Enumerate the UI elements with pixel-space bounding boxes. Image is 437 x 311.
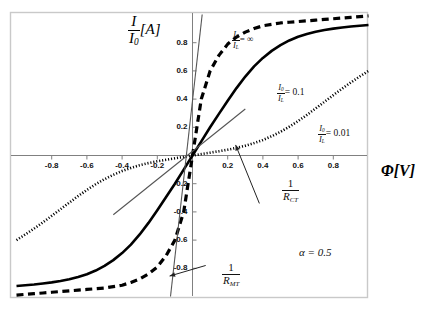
r-ct-annotation: 1 RCT (282, 178, 299, 202)
y-axis-title-numerator: I (128, 14, 140, 31)
x-tick-label: -0.6 (77, 162, 97, 170)
y-axis-title: I I0 [A] (128, 14, 161, 48)
x-tick-label: 0.2 (218, 162, 238, 170)
x-tick-label: -0.8 (42, 162, 62, 170)
legend-label-infinity: I0 IL = ∞ (232, 30, 254, 50)
y-tick-label: -0.2 (166, 180, 188, 188)
y-tick-label: 0.6 (166, 67, 188, 75)
legend-1-den: IL (277, 94, 285, 104)
y-tick-label: -0.8 (166, 264, 188, 272)
alpha-annotation: α = 0.5 (299, 247, 331, 258)
r-mt-annotation: 1 RMT (222, 262, 240, 286)
x-tick-label: 0.4 (253, 162, 273, 170)
x-tick-label: -0.2 (147, 162, 167, 170)
r-ct-denominator: RCT (282, 191, 299, 203)
y-axis-title-unit: [A] (140, 21, 161, 37)
x-axis-title: Φ[V] (381, 163, 415, 179)
legend-label-0p1: I0 IL = 0.1 (277, 83, 304, 103)
legend-label-0p01: I0 IL = 0.01 (318, 124, 350, 144)
x-tick-label: 0.6 (288, 162, 308, 170)
y-tick-label: -0.4 (166, 208, 188, 216)
x-tick-label: 0.8 (323, 162, 343, 170)
iv-curve-chart (0, 0, 437, 311)
legend-1-eq: = 0.1 (285, 87, 305, 97)
r-ct-arrow (235, 145, 259, 204)
x-tick-label: -0.4 (112, 162, 132, 170)
y-tick-label: 0.2 (166, 123, 188, 131)
y-tick-label: 0.8 (166, 39, 188, 47)
r-mt-denominator: RMT (222, 275, 240, 287)
figure-root: I I0 [A] Φ[V] α = 0.5 1 RCT 1 RMT I0 IL … (0, 0, 437, 311)
legend-2-eq: = 0.01 (326, 128, 350, 138)
y-axis-title-denominator: I0 (128, 31, 140, 48)
legend-2-den: IL (318, 135, 326, 145)
y-tick-label: -0.6 (166, 236, 188, 244)
y-tick-label: 0.4 (166, 95, 188, 103)
legend-0-den: IL (232, 41, 240, 51)
legend-0-eq: = ∞ (240, 34, 254, 44)
